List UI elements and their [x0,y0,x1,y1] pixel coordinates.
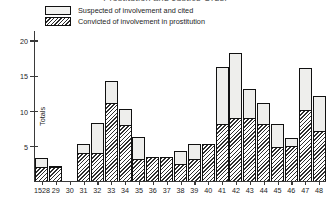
bar-segment-convicted [160,157,173,181]
bar-segment-convicted [271,147,284,181]
bar-chart: Prostitution and Justice Order Suspected… [0,0,331,200]
x-tick-41 [222,181,223,185]
x-tick-46 [291,181,292,185]
x-tick-1528 [42,181,43,185]
bar-segment-convicted [119,125,132,181]
x-tick-label-40: 40 [204,186,212,195]
x-tick-label-32: 32 [93,186,101,195]
x-tick-44 [264,181,265,185]
x-tick-30 [70,181,71,185]
x-tick-label-45: 45 [274,186,282,195]
legend-label-convicted: Convicted of involvement in prostitution [78,17,205,26]
x-tick-label-47: 47 [301,186,309,195]
bar-segment-convicted [243,118,256,181]
bar-segment-convicted [91,153,104,181]
bar-31[interactable] [77,144,90,181]
x-tick-45 [278,181,279,185]
legend-item-convicted: Convicted of involvement in prostitution [45,16,205,27]
x-tick-label-38: 38 [177,186,185,195]
bar-45[interactable] [271,124,284,181]
x-tick-29 [56,181,57,185]
bar-34[interactable] [119,109,132,181]
bar-segment-convicted [132,159,145,181]
x-tick-label-35: 35 [135,186,143,195]
x-tick-label-48: 48 [315,186,323,195]
x-tick-38 [181,181,182,185]
bar-segment-convicted [216,124,229,181]
bar-segment-convicted [49,167,62,181]
x-tick-35 [139,181,140,185]
legend-swatch-open-icon [45,6,71,15]
bar-43[interactable] [243,89,256,181]
bar-39[interactable] [188,144,201,181]
bar-37[interactable] [160,157,173,181]
x-tick-43 [250,181,251,185]
bar-29[interactable] [49,166,62,182]
bar-46[interactable] [285,138,298,181]
bar-segment-convicted [174,164,187,181]
x-tick-42 [236,181,237,185]
bar-segment-convicted [313,131,326,181]
x-tick-40 [208,181,209,185]
x-tick-label-33: 33 [107,186,115,195]
x-tick-label-30: 30 [66,186,74,195]
x-tick-label-37: 37 [163,186,171,195]
bar-group: 1528293031323334353637383940414243444546… [35,30,326,181]
x-tick-label-42: 42 [232,186,240,195]
bar-38[interactable] [174,151,187,181]
plot-area: Totals 5101520 1528293031323334353637383… [34,30,326,182]
bar-1528[interactable] [35,158,48,181]
x-tick-33 [111,181,112,185]
x-tick-39 [194,181,195,185]
x-tick-label-41: 41 [218,186,226,195]
bar-48[interactable] [313,96,326,181]
y-tick-label-15: 15 [20,72,28,81]
bar-35[interactable] [132,137,145,181]
x-tick-36 [153,181,154,185]
bar-segment-convicted [299,110,312,181]
x-tick-label-46: 46 [287,186,295,195]
x-tick-label-36: 36 [149,186,157,195]
legend-item-suspected: Suspected of involvement and cited [45,5,205,16]
x-tick-label-44: 44 [260,186,268,195]
x-tick-label-1528: 1528 [34,186,50,195]
x-tick-label-39: 39 [190,186,198,195]
bar-segment-convicted [77,153,90,181]
x-tick-34 [125,181,126,185]
x-tick-47 [305,181,306,185]
bar-segment-convicted [202,144,215,181]
bar-42[interactable] [229,53,242,181]
bar-41[interactable] [216,67,229,181]
x-tick-label-43: 43 [246,186,254,195]
bar-segment-convicted [105,103,118,181]
bar-segment-convicted [285,146,298,181]
x-tick-31 [84,181,85,185]
y-tick-label-20: 20 [20,37,28,46]
bar-47[interactable] [299,68,312,181]
y-tick-label-5: 5 [24,142,28,151]
bar-segment-convicted [257,124,270,181]
bar-36[interactable] [146,157,159,181]
x-tick-32 [97,181,98,185]
x-tick-label-31: 31 [80,186,88,195]
bar-segment-convicted [229,118,242,181]
legend-swatch-hatch-icon [45,17,71,26]
x-tick-label-29: 29 [52,186,60,195]
x-tick-label-34: 34 [121,186,129,195]
bar-32[interactable] [91,123,104,181]
y-tick-label-10: 10 [20,107,28,116]
legend-label-suspected: Suspected of involvement and cited [78,6,193,15]
x-tick-48 [319,181,320,185]
bar-44[interactable] [257,103,270,181]
bar-33[interactable] [105,81,118,181]
x-tick-37 [167,181,168,185]
chart-legend: Suspected of involvement and cited Convi… [45,5,205,27]
bar-segment-convicted [35,167,48,181]
bar-segment-convicted [146,157,159,181]
chart-title: Prostitution and Justice Order [0,0,331,3]
bar-40[interactable] [202,144,215,181]
bar-segment-convicted [188,159,201,181]
